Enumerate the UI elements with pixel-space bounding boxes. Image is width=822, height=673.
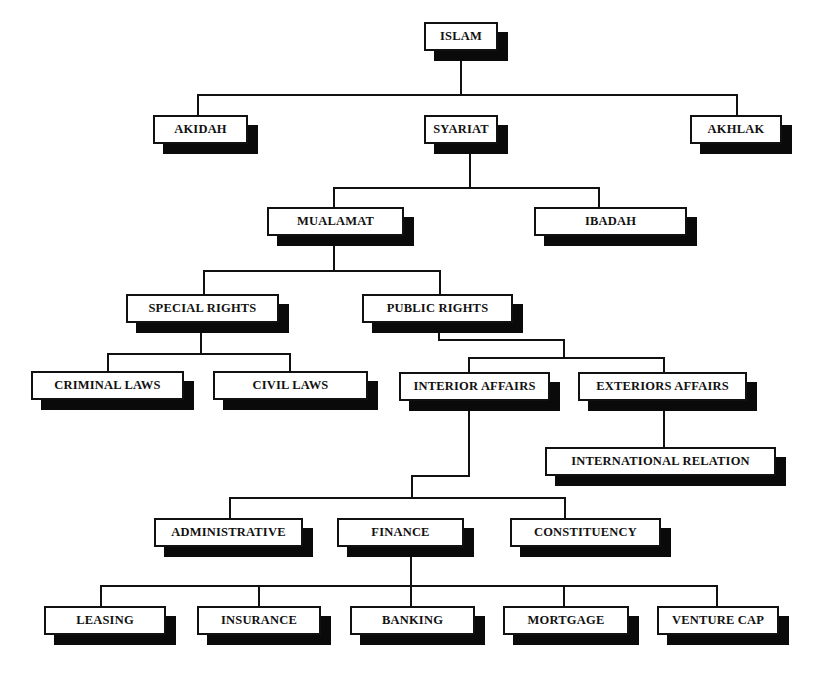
connector-line xyxy=(289,353,291,372)
node-box: AKHLAK xyxy=(690,115,782,144)
node-finance: FINANCE xyxy=(337,518,464,547)
connector-line xyxy=(333,187,335,208)
node-label: LEASING xyxy=(76,613,134,628)
connector-line xyxy=(564,497,566,519)
connector-line xyxy=(410,585,412,607)
connector-line xyxy=(197,94,199,116)
connector-line xyxy=(411,475,413,499)
node-box: AKIDAH xyxy=(153,115,248,144)
node-box: CIVIL LAWS xyxy=(213,371,368,400)
node-label: INTERNATIONAL RELATION xyxy=(571,454,750,469)
node-label: CRIMINAL LAWS xyxy=(54,378,160,393)
node-box: INTERNATIONAL RELATION xyxy=(545,447,776,476)
connector-line xyxy=(736,94,738,116)
node-islam: ISLAM xyxy=(424,22,498,51)
connector-line xyxy=(563,585,565,607)
node-label: AKIDAH xyxy=(174,122,227,137)
connector-line xyxy=(100,585,102,607)
connector-line xyxy=(468,400,470,477)
node-interior-affairs: INTERIOR AFFAIRS xyxy=(399,372,550,401)
node-label: CIVIL LAWS xyxy=(253,378,329,393)
node-box: FINANCE xyxy=(337,518,464,547)
node-constituency: CONSTITUENCY xyxy=(510,518,661,547)
connector-line xyxy=(229,497,566,499)
node-label: PUBLIC RIGHTS xyxy=(387,301,489,316)
node-box: VENTURE CAP xyxy=(657,606,779,635)
node-ibadah: IBADAH xyxy=(534,207,687,236)
node-mortgage: MORTGAGE xyxy=(503,606,629,635)
node-box: SPECIAL RIGHTS xyxy=(126,294,279,323)
node-box: INSURANCE xyxy=(197,606,321,635)
node-akidah: AKIDAH xyxy=(153,115,248,144)
node-box: EXTERIORS AFFAIRS xyxy=(578,372,747,401)
node-civil-laws: CIVIL LAWS xyxy=(213,371,368,400)
node-criminal-laws: CRIMINAL LAWS xyxy=(31,371,184,400)
node-label: CONSTITUENCY xyxy=(534,525,637,540)
connector-line xyxy=(439,270,441,295)
node-leasing: LEASING xyxy=(44,606,166,635)
connector-line xyxy=(438,339,565,341)
node-akhlak: AKHLAK xyxy=(690,115,782,144)
connector-line xyxy=(258,585,260,607)
connector-line xyxy=(203,270,205,295)
node-box: MORTGAGE xyxy=(503,606,629,635)
node-box: CRIMINAL LAWS xyxy=(31,371,184,400)
connector-line xyxy=(411,475,470,477)
node-label: IBADAH xyxy=(585,214,636,229)
node-public-rights: PUBLIC RIGHTS xyxy=(362,294,513,323)
node-label: VENTURE CAP xyxy=(672,613,764,628)
node-box: MUALAMAT xyxy=(267,207,404,236)
connector-line xyxy=(107,353,109,372)
node-label: ADMINISTRATIVE xyxy=(171,525,285,540)
connector-line xyxy=(229,497,231,519)
connector-line xyxy=(663,357,665,373)
node-box: SYARIAT xyxy=(424,115,498,144)
node-label: EXTERIORS AFFAIRS xyxy=(596,379,729,394)
node-international-relation: INTERNATIONAL RELATION xyxy=(545,447,776,476)
connector-line xyxy=(203,270,441,272)
node-mualamat: MUALAMAT xyxy=(267,207,404,236)
node-banking: BANKING xyxy=(350,606,475,635)
connector-line xyxy=(598,187,600,208)
node-label: BANKING xyxy=(382,613,443,628)
org-chart-diagram: ISLAM AKIDAH SYARIAT AKHLAK MUALAMAT IBA… xyxy=(0,0,822,673)
connector-line xyxy=(468,357,470,373)
connector-line xyxy=(107,353,291,355)
node-administrative: ADMINISTRATIVE xyxy=(154,518,303,547)
node-label: AKHLAK xyxy=(708,122,765,137)
node-label: ISLAM xyxy=(440,29,482,44)
node-label: INSURANCE xyxy=(221,613,297,628)
connector-line xyxy=(563,339,565,359)
connector-line xyxy=(716,585,718,607)
node-exteriors-affairs: EXTERIORS AFFAIRS xyxy=(578,372,747,401)
node-label: MORTGAGE xyxy=(528,613,605,628)
node-box: IBADAH xyxy=(534,207,687,236)
node-syariat: SYARIAT xyxy=(424,115,498,144)
connector-line xyxy=(333,187,600,189)
node-label: INTERIOR AFFAIRS xyxy=(413,379,535,394)
connector-line xyxy=(100,585,718,587)
node-box: LEASING xyxy=(44,606,166,635)
node-label: FINANCE xyxy=(371,525,429,540)
node-insurance: INSURANCE xyxy=(197,606,321,635)
node-box: ISLAM xyxy=(424,22,498,51)
node-box: INTERIOR AFFAIRS xyxy=(399,372,550,401)
node-label: MUALAMAT xyxy=(297,214,374,229)
connector-line xyxy=(468,357,665,359)
node-box: PUBLIC RIGHTS xyxy=(362,294,513,323)
node-special-rights: SPECIAL RIGHTS xyxy=(126,294,279,323)
node-box: BANKING xyxy=(350,606,475,635)
connector-line xyxy=(197,94,738,96)
node-venture-cap: VENTURE CAP xyxy=(657,606,779,635)
node-label: SPECIAL RIGHTS xyxy=(148,301,256,316)
node-box: ADMINISTRATIVE xyxy=(154,518,303,547)
node-box: CONSTITUENCY xyxy=(510,518,661,547)
node-label: SYARIAT xyxy=(433,122,489,137)
